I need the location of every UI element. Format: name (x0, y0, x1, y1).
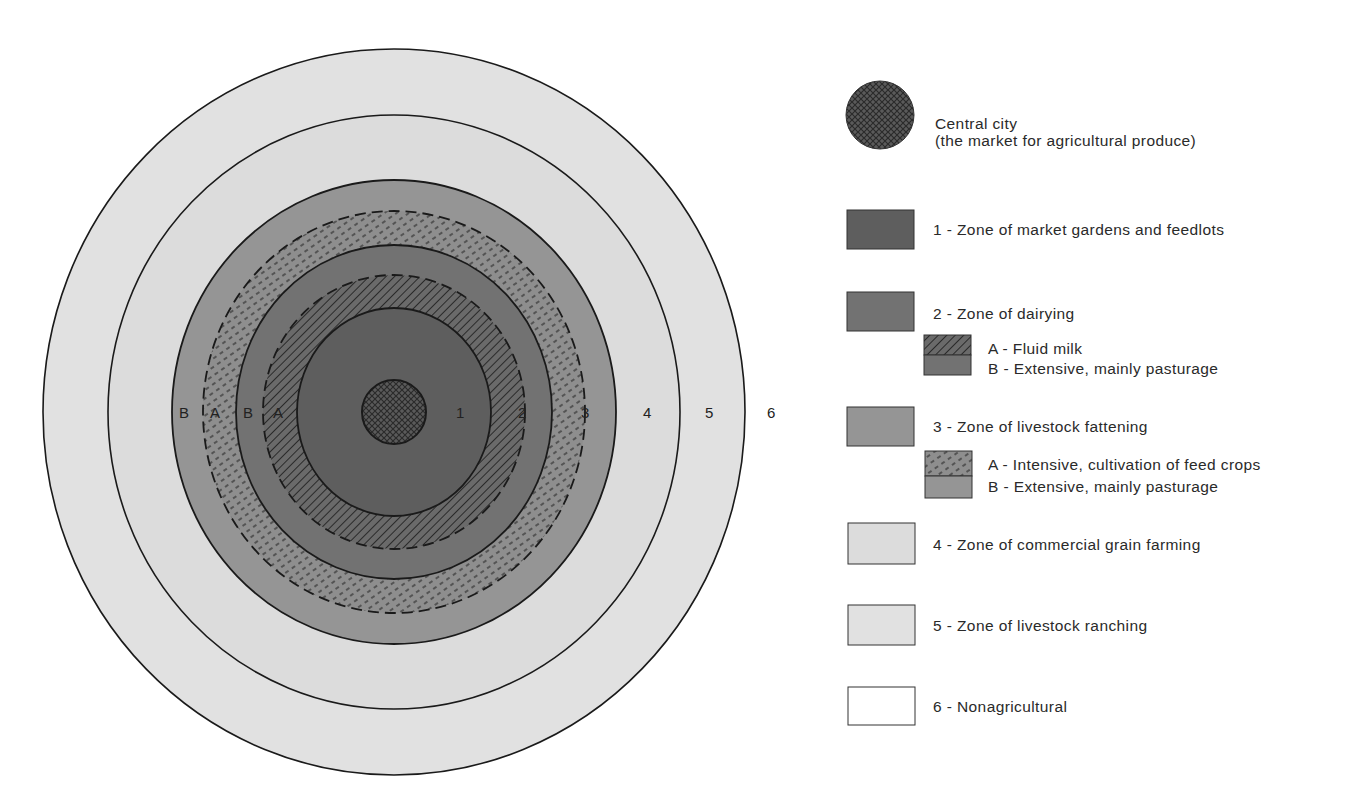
ring-label-3: 3 (581, 404, 590, 421)
ring-label-2: 2 (518, 404, 527, 421)
legend-zone3-swatch (847, 407, 914, 446)
ring-label-6: 6 (767, 404, 776, 421)
legend-zone2a-swatch (924, 335, 971, 355)
central-city-circle (362, 380, 426, 444)
legend-zone3a-swatch (925, 451, 972, 476)
legend-zone2b-swatch (924, 355, 971, 375)
ring-label-5: 5 (705, 404, 714, 421)
legend-city-swatch (846, 81, 914, 149)
legend-zone4-swatch (848, 523, 915, 564)
ring-label-4: 4 (643, 404, 652, 421)
legend-zone5-swatch (848, 605, 915, 645)
legend-zone1-swatch (847, 210, 914, 249)
legend-zone3b-swatch (925, 476, 972, 498)
von-thunen-diagram: 1 2 3 4 5 6 B A B A (0, 0, 1356, 801)
legend-zone6-swatch (848, 687, 915, 725)
legend-zone2-swatch (847, 292, 914, 331)
ring-label-1: 1 (456, 404, 465, 421)
ring-label-2a: A (273, 404, 284, 421)
ring-label-2b: B (243, 404, 254, 421)
ring-label-3b: B (179, 404, 190, 421)
ring-label-3a: A (210, 404, 221, 421)
